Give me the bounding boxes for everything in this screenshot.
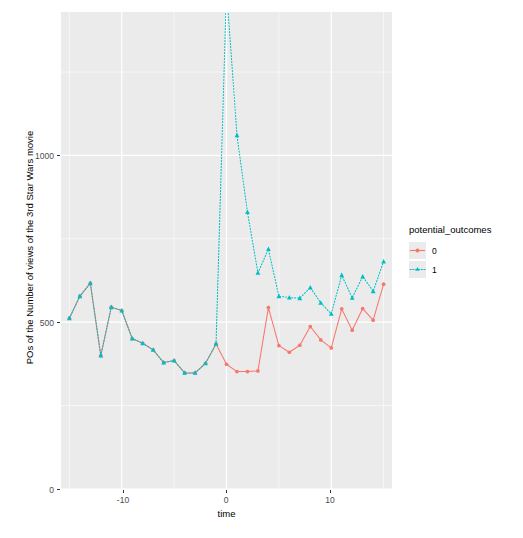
x-tick-label-10: 10: [310, 495, 350, 505]
legend-item-1[interactable]: 1: [409, 261, 519, 278]
legend-title: potential_outcomes: [409, 224, 519, 235]
plot-panel: [61, 12, 392, 489]
legend-label-0: 0: [432, 246, 437, 256]
x-tickmark-0: [226, 490, 227, 493]
legend-label-1: 1: [432, 265, 437, 275]
y-axis-title: POs of the Number of views of the 3rd St…: [24, 98, 35, 398]
plot-svg: [61, 12, 392, 489]
y-tickmark-500: [57, 322, 60, 323]
y-tickmark-0: [57, 489, 60, 490]
chart-root: 0 500 1000 -10 0 10 time POs of the Numb…: [0, 0, 523, 538]
x-tick-label-minus10: -10: [103, 495, 143, 505]
x-tickmark-10: [330, 490, 331, 493]
x-tickmark-minus10: [123, 490, 124, 493]
x-tick-label-0: 0: [206, 495, 246, 505]
legend-key-circle-icon: [409, 242, 426, 259]
y-tick-label-0: 0: [14, 485, 54, 495]
legend-item-0[interactable]: 0: [409, 242, 519, 259]
legend: potential_outcomes 0 1: [409, 224, 519, 280]
x-axis-title: time: [61, 508, 392, 519]
legend-key-triangle-icon: [409, 261, 426, 278]
y-tickmark-1000: [57, 155, 60, 156]
